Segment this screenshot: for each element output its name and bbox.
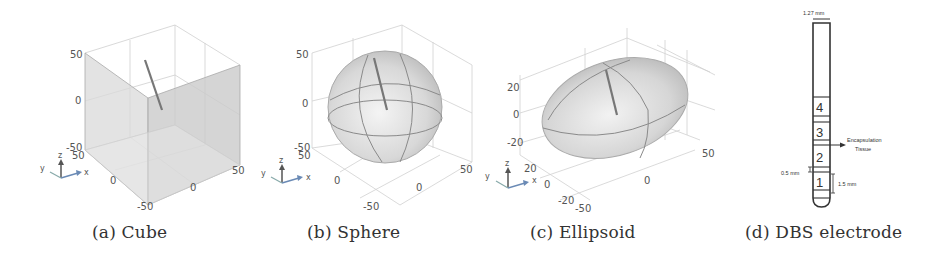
contact-1: 1 bbox=[816, 175, 823, 190]
encapsulation-label: Encapsulation bbox=[847, 137, 882, 143]
gap-label: 0.5 mm bbox=[781, 170, 800, 176]
x-tick-left: -50 bbox=[575, 203, 591, 214]
x-tick-right: 50 bbox=[702, 148, 715, 159]
caption-sphere: (b) Sphere bbox=[307, 222, 400, 242]
y-tick-top: 50 bbox=[298, 150, 311, 161]
tissue-label: Tissue bbox=[855, 146, 871, 152]
y-tick-mid: 0 bbox=[110, 175, 116, 186]
x-tick-mid: 0 bbox=[190, 182, 196, 193]
z-tick-top: 50 bbox=[296, 49, 309, 60]
y-tick-mid: 0 bbox=[334, 175, 340, 186]
sphere-plot: 50 0 -50 50 0 -50 0 50 z x y bbox=[250, 0, 480, 220]
z-tick-bottom: -20 bbox=[507, 137, 523, 148]
z-tick-mid: 0 bbox=[513, 109, 519, 120]
x-tick-mid: 0 bbox=[644, 175, 650, 186]
y-tick-bottom: -50 bbox=[363, 201, 379, 212]
svg-text:y: y bbox=[261, 169, 266, 178]
svg-text:x: x bbox=[306, 173, 311, 182]
arrow-icon bbox=[840, 143, 846, 148]
x-tick-right: 50 bbox=[232, 165, 245, 176]
ellipsoid-plot: 20 0 -20 20 0 -20 -50 0 50 z x y bbox=[480, 0, 735, 220]
contact-3: 3 bbox=[816, 125, 823, 140]
cube-plot: 50 0 -50 50 0 -50 0 50 z x y bbox=[0, 0, 250, 220]
svg-text:z: z bbox=[505, 159, 509, 168]
panel-cube: 50 0 -50 50 0 -50 0 50 z x y (a) Cube bbox=[0, 0, 250, 264]
y-tick-top: 50 bbox=[72, 150, 85, 161]
sphere-surface bbox=[328, 51, 442, 163]
svg-text:y: y bbox=[485, 172, 490, 181]
z-tick-mid: 0 bbox=[302, 98, 308, 109]
panel-dbs-electrode: 1.27 mm 4 3 2 1 Encapsulation Tissue 0.5… bbox=[735, 0, 951, 264]
x-tick-mid: 0 bbox=[416, 182, 422, 193]
caption-cube: (a) Cube bbox=[92, 222, 167, 242]
caption-ellipsoid: (c) Ellipsoid bbox=[530, 222, 636, 242]
caption-dbs-electrode: (d) DBS electrode bbox=[745, 222, 902, 242]
electrode-diagram: 1.27 mm 4 3 2 1 Encapsulation Tissue 0.5… bbox=[735, 0, 951, 220]
z-tick-top: 20 bbox=[507, 82, 520, 93]
panel-sphere: 50 0 -50 50 0 -50 0 50 z x y (b) Sphere bbox=[250, 0, 480, 264]
y-tick-bottom: -50 bbox=[137, 201, 153, 212]
width-label: 1.27 mm bbox=[803, 10, 825, 16]
contact-2: 2 bbox=[816, 150, 823, 165]
panel-ellipsoid: 20 0 -20 20 0 -20 -50 0 50 z x y (c) Ell… bbox=[480, 0, 735, 264]
svg-text:z: z bbox=[279, 156, 283, 165]
svg-text:y: y bbox=[40, 164, 45, 173]
z-tick-top: 50 bbox=[70, 49, 83, 60]
y-tick-mid: 0 bbox=[544, 179, 550, 190]
contact-height-label: 1.5 mm bbox=[838, 181, 857, 187]
x-tick-right: 50 bbox=[460, 164, 473, 175]
svg-text:x: x bbox=[532, 176, 537, 185]
y-tick-top: 20 bbox=[524, 163, 537, 174]
svg-text:x: x bbox=[84, 168, 89, 177]
contact-4: 4 bbox=[816, 100, 823, 115]
z-tick-mid: 0 bbox=[75, 95, 81, 106]
y-tick-bottom: -20 bbox=[558, 195, 574, 206]
svg-text:z: z bbox=[58, 151, 62, 160]
